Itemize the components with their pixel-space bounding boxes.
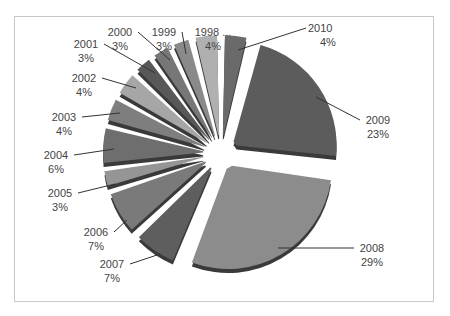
slice-label-category: 2003 [52, 111, 76, 123]
pie-slice-2008[interactable] [192, 166, 331, 269]
slice-label-percent: 4% [320, 36, 336, 48]
slice-label-category: 2009 [366, 114, 390, 126]
leader-line [238, 28, 306, 50]
slice-label-category: 1998 ... [195, 26, 232, 38]
slice-label-category: 2002 [72, 72, 96, 84]
slice-label-category: 2005 [48, 187, 72, 199]
slice-label-percent: 3% [112, 40, 128, 52]
slice-label-category: 2006 [84, 226, 108, 238]
slice-label-percent: 7% [88, 240, 104, 252]
pie-chart: 20104%200923%200829%20077%20067%20053%20… [0, 0, 450, 316]
leader-line [130, 254, 160, 264]
slice-label-category: 2004 [44, 149, 68, 161]
slice-label-percent: 29% [361, 256, 383, 268]
slice-label-category: 2008 [360, 242, 384, 254]
slice-label-percent: 3% [52, 201, 68, 213]
slice-label-percent: 3% [78, 52, 94, 64]
slice-label-percent: 4% [76, 86, 92, 98]
slice-label-category: 2010 [308, 22, 332, 34]
slice-label-percent: 3% [156, 40, 172, 52]
pie-slice-2009[interactable] [234, 45, 337, 156]
slice-label-percent: 23% [367, 128, 389, 140]
slice-label-category: 2001 [74, 38, 98, 50]
leader-line [114, 220, 127, 232]
slice-label-percent: 6% [48, 163, 64, 175]
slice-label-percent: 4% [56, 125, 72, 137]
slice-label-category: 1999 [152, 26, 176, 38]
slice-label-category: 2000 [108, 26, 132, 38]
slice-label-percent: 4% [205, 40, 221, 52]
slice-label-percent: 7% [104, 272, 120, 284]
slice-label-category: 2007 [100, 258, 124, 270]
